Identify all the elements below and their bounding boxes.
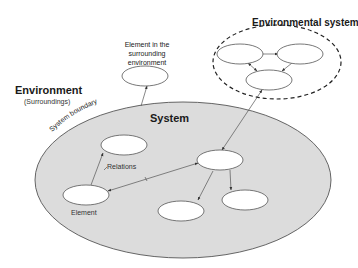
environmental-system-title: Environmental system (252, 17, 358, 28)
env-system-node-bottom (246, 70, 292, 90)
env-relation-left-bottom (248, 63, 257, 71)
relations-label: Relations (107, 163, 136, 170)
system-title: System (150, 112, 189, 124)
relation-to-surrounding-element (141, 86, 147, 106)
system-node-center (197, 150, 243, 170)
surrounding-element-node (122, 66, 168, 86)
system-node-element (63, 185, 109, 205)
element-label: Element (71, 209, 97, 216)
environment-title: Environment (15, 84, 82, 96)
surrounding-element-label: Element in the surrounding environment (117, 40, 177, 67)
system-environment-diagram: System boundary Environment (Surrounding… (0, 0, 358, 268)
diagram-graphics: System boundary (0, 0, 358, 268)
system-node-bottom-right (222, 190, 268, 210)
env-system-node-right (277, 44, 323, 64)
system-node-bottom-center (158, 201, 204, 221)
env-system-node-left (217, 44, 263, 64)
environment-subtitle: (Surroundings) (24, 98, 70, 105)
system-node-upper-left (101, 135, 147, 155)
env-relation-right-bottom (282, 63, 292, 71)
system-boundary-ellipse (35, 102, 331, 258)
